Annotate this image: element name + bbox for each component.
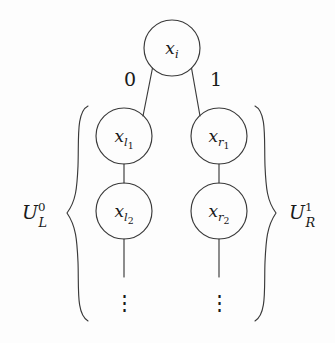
left-vdots-icon: ⋮ (114, 291, 135, 315)
node-x-l2-label: xl2 (114, 201, 133, 226)
node-x-r1: xr1 (191, 108, 247, 164)
left-set-label-subscript: L (38, 215, 48, 230)
node-x-r1-label: xr1 (208, 126, 229, 151)
node-root-base: x (165, 38, 175, 58)
node-x-l1-base: x (114, 126, 124, 146)
tree-canvas: xi 0 1 xl1 xr1 xl2 (0, 0, 335, 343)
right-brace-path (255, 106, 276, 321)
edge-group (124, 68, 219, 277)
left-set-label-superscript: 0 (38, 200, 46, 214)
node-x-l2-subsubscript: 2 (128, 215, 134, 226)
node-x-l2: xl2 (96, 183, 152, 239)
right-set-label-superscript: 1 (305, 200, 313, 214)
node-root: xi (144, 20, 200, 76)
left-brace-path (67, 106, 88, 321)
node-x-r2-base: x (208, 201, 218, 221)
node-x-r2-subsubscript: 2 (224, 215, 230, 226)
right-brace (255, 106, 276, 321)
left-set-label-base: U (22, 201, 39, 223)
node-x-l1-label: xl1 (114, 126, 133, 151)
left-set-label: U0L (22, 200, 47, 230)
edge-label-one: 1 (210, 68, 222, 90)
right-set-label-base: U (289, 201, 306, 223)
edge-label-zero: 0 (124, 68, 136, 90)
node-x-l1: xl1 (96, 108, 152, 164)
node-root-label: xi (165, 38, 179, 61)
right-set-label: U1R (289, 200, 316, 230)
edge-root-to-right (192, 68, 201, 116)
node-x-l2-base: x (114, 201, 124, 221)
right-set-label-subscript: R (305, 215, 316, 230)
left-brace (67, 106, 88, 321)
node-x-l1-subsubscript: 1 (128, 140, 134, 151)
binary-tree-figure: xi 0 1 xl1 xr1 xl2 (0, 0, 335, 343)
node-x-r1-base: x (208, 126, 218, 146)
node-x-r1-subsubscript: 1 (224, 140, 230, 151)
right-vdots-icon: ⋮ (209, 291, 230, 315)
node-x-r2: xr2 (191, 183, 247, 239)
node-x-r2-label: xr2 (208, 201, 229, 226)
edge-root-to-left (143, 68, 153, 116)
node-root-subscript: i (175, 47, 179, 61)
